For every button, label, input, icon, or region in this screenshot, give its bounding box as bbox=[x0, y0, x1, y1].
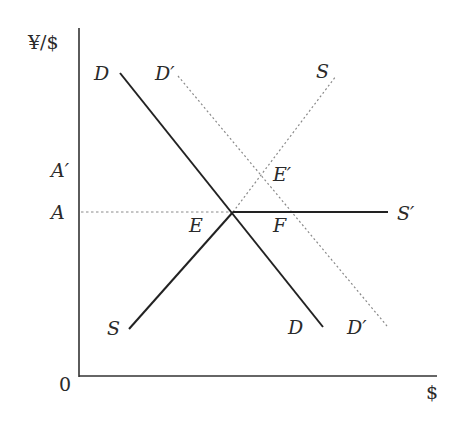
d-label-bottom: D bbox=[287, 316, 303, 338]
d-prime-label-bottom: D′ bbox=[346, 316, 367, 338]
point-f-label: F bbox=[272, 214, 287, 236]
supply-curve-s-lower bbox=[129, 212, 233, 329]
d-label-top: D bbox=[93, 62, 109, 84]
origin-label: 0 bbox=[59, 373, 71, 395]
fx-market-diagram: ¥/$ $ $ 0 A′ A D D′ S S′ S D D′ E E′ F bbox=[0, 0, 461, 425]
d-prime-label-top: D′ bbox=[154, 62, 175, 84]
x-axis-label-visible: $ bbox=[426, 381, 438, 403]
supply-curve-s-upper bbox=[233, 76, 336, 212]
price-level-a-label: A bbox=[49, 201, 65, 223]
s-label-top: S bbox=[316, 60, 329, 82]
y-axis-label: ¥/$ bbox=[27, 31, 59, 53]
price-level-a-prime-label: A′ bbox=[49, 159, 70, 181]
point-e-label: E bbox=[188, 214, 203, 236]
demand-curve-d-prime bbox=[178, 76, 387, 326]
s-prime-label: S′ bbox=[397, 202, 415, 224]
demand-curve-d bbox=[120, 73, 323, 327]
point-e-prime-label: E′ bbox=[272, 163, 292, 185]
s-label-bottom: S bbox=[107, 317, 120, 339]
